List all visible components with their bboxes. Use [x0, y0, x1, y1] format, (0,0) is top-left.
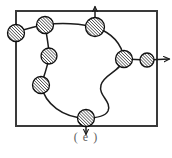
- curve-segment: [86, 59, 124, 118]
- figure-caption: ( e ): [0, 130, 172, 145]
- graph-node: [33, 77, 50, 94]
- graph-node: [140, 53, 154, 67]
- graph-node: [41, 48, 57, 64]
- figure-container: ( e ): [0, 0, 172, 158]
- graph-node: [116, 51, 133, 68]
- graph-node: [8, 25, 25, 42]
- graph-node: [86, 18, 105, 37]
- graph-node: [37, 17, 54, 34]
- node-group: [8, 17, 155, 127]
- graph-node: [78, 110, 95, 127]
- closed-curve: [8, 24, 147, 118]
